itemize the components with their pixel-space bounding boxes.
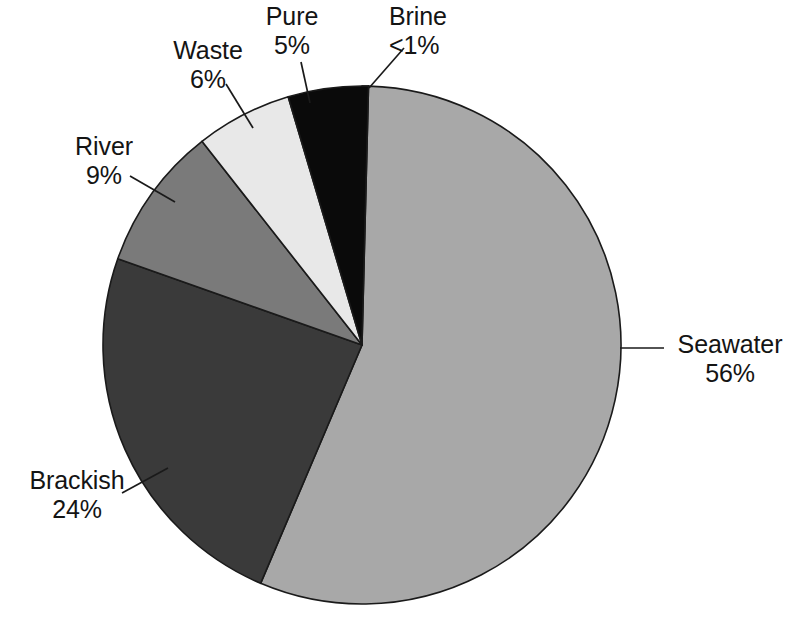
label-waste-value: 6% — [148, 65, 268, 94]
label-brackish-name: Brackish — [2, 466, 152, 495]
label-brine-value: <1% — [389, 31, 539, 60]
label-waste: Waste 6% — [148, 36, 268, 95]
label-brackish-value: 24% — [2, 495, 152, 524]
label-river-name: River — [48, 132, 160, 161]
label-brine-name: Brine — [389, 2, 539, 31]
label-river: River 9% — [48, 132, 160, 191]
label-brine: Brine <1% — [389, 2, 539, 61]
label-seawater: Seawater 56% — [660, 330, 787, 389]
pie-slices-group — [103, 86, 621, 604]
label-pure-name: Pure — [232, 2, 352, 31]
label-seawater-name: Seawater — [660, 330, 787, 359]
label-seawater-value: 56% — [660, 359, 787, 388]
label-brackish: Brackish 24% — [2, 466, 152, 525]
label-waste-name: Waste — [148, 36, 268, 65]
label-river-value: 9% — [48, 161, 160, 190]
